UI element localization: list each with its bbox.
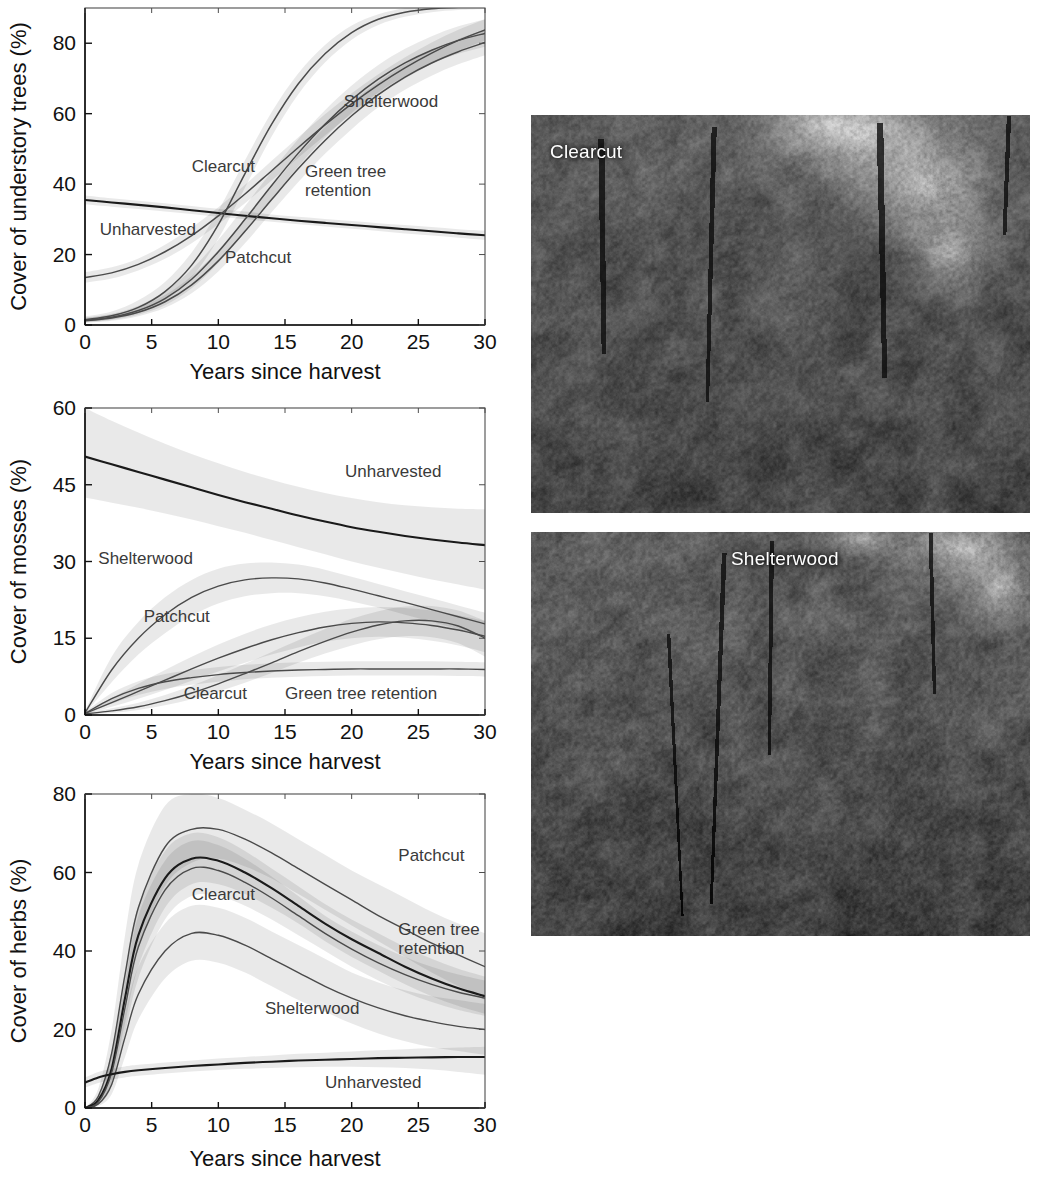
y-axis-title: Cover of mosses (%) <box>6 459 31 664</box>
photo-clearcut-caption: Clearcut <box>550 141 622 163</box>
x-axis-title: Years since harvest <box>189 749 380 774</box>
series-label-patchcut: Patchcut <box>144 607 210 626</box>
x-tick-label: 15 <box>273 1113 296 1136</box>
confidence-band-green-tree-retention <box>85 19 485 322</box>
chart-herbs: 051015202530020406080Years since harvest… <box>0 782 520 1172</box>
photo-clearcut: Clearcut <box>531 115 1030 513</box>
series-label-patchcut: Patchcut <box>225 248 291 267</box>
x-tick-label: 5 <box>146 1113 158 1136</box>
y-tick-label: 15 <box>53 626 76 649</box>
y-tick-label: 40 <box>53 172 76 195</box>
y-tick-label: 60 <box>53 396 76 419</box>
chart-mosses: 051015202530015304560Years since harvest… <box>0 390 520 775</box>
chart-understory-trees: 051015202530020406080Years since harvest… <box>0 0 520 385</box>
series-label-unharvested: Unharvested <box>325 1073 421 1092</box>
x-tick-label: 10 <box>207 720 230 743</box>
y-tick-label: 0 <box>64 703 76 726</box>
x-tick-label: 0 <box>79 330 91 353</box>
chart-herbs: 051015202530020406080Years since harvest… <box>0 782 520 1172</box>
y-axis-title: Cover of herbs (%) <box>6 859 31 1044</box>
x-tick-label: 20 <box>340 1113 363 1136</box>
y-tick-label: 30 <box>53 550 76 573</box>
x-axis-title: Years since harvest <box>189 1146 380 1171</box>
y-tick-label: 60 <box>53 861 76 884</box>
y-tick-label: 0 <box>64 313 76 336</box>
x-tick-label: 30 <box>473 330 496 353</box>
series-label-shelterwood: Shelterwood <box>98 549 193 568</box>
photo-shelterwood: Shelterwood <box>531 532 1030 936</box>
x-tick-label: 0 <box>79 720 91 743</box>
y-tick-label: 45 <box>53 473 76 496</box>
y-tick-label: 80 <box>53 782 76 805</box>
series-label-clearcut: Clearcut <box>184 684 248 703</box>
confidence-band-unharvested <box>85 1047 485 1088</box>
photo-clearcut-image <box>531 115 1030 513</box>
x-tick-label: 25 <box>407 1113 430 1136</box>
series-label-patchcut: Patchcut <box>398 846 464 865</box>
x-tick-label: 5 <box>146 330 158 353</box>
y-tick-label: 80 <box>53 31 76 54</box>
photo-shelterwood-caption: Shelterwood <box>731 548 839 570</box>
y-tick-label: 20 <box>53 1018 76 1041</box>
x-tick-label: 20 <box>340 720 363 743</box>
x-tick-label: 20 <box>340 330 363 353</box>
series-label-clearcut: Clearcut <box>192 157 256 176</box>
x-tick-label: 10 <box>207 1113 230 1136</box>
x-tick-label: 25 <box>407 720 430 743</box>
photo-shelterwood-image <box>531 532 1030 936</box>
x-tick-label: 5 <box>146 720 158 743</box>
y-tick-label: 40 <box>53 939 76 962</box>
y-axis-title: Cover of understory trees (%) <box>6 22 31 311</box>
x-tick-label: 30 <box>473 720 496 743</box>
series-label-unharvested: Unharvested <box>345 462 441 481</box>
x-tick-label: 30 <box>473 1113 496 1136</box>
y-tick-label: 0 <box>64 1096 76 1119</box>
series-label-clearcut: Clearcut <box>192 885 256 904</box>
series-label-green-tree-retention: Green tree retention <box>285 684 437 703</box>
y-tick-label: 20 <box>53 243 76 266</box>
x-tick-label: 15 <box>273 330 296 353</box>
x-tick-label: 15 <box>273 720 296 743</box>
x-tick-label: 0 <box>79 1113 91 1136</box>
chart-understory-trees: 051015202530020406080Years since harvest… <box>0 0 520 385</box>
y-tick-label: 60 <box>53 102 76 125</box>
chart-mosses: 051015202530015304560Years since harvest… <box>0 390 520 775</box>
x-tick-label: 10 <box>207 330 230 353</box>
series-label-green-tree-retention: Green treeretention <box>305 162 386 200</box>
x-axis-title: Years since harvest <box>189 359 380 384</box>
series-label-unharvested: Unharvested <box>100 220 196 239</box>
series-label-shelterwood: Shelterwood <box>344 92 439 111</box>
x-tick-label: 25 <box>407 330 430 353</box>
series-label-shelterwood: Shelterwood <box>265 999 360 1018</box>
